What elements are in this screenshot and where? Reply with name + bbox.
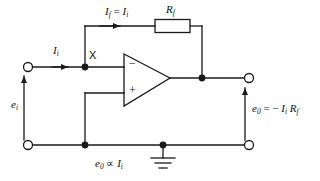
- output-terminal-bottom: [245, 141, 254, 150]
- feedback-current-label: If = Ii: [105, 6, 128, 18]
- junction-noninverting-return: [82, 142, 89, 149]
- output-voltage-equation-label: e0 = − Ii Rf: [252, 103, 299, 115]
- junction-output-node: [199, 75, 206, 82]
- input-voltage-label: ei: [11, 99, 18, 111]
- input-terminal-top: [24, 63, 33, 72]
- input-current-label: Ii: [53, 45, 59, 57]
- feedback-resistor-body: [155, 20, 190, 33]
- junction-ground-rail: [160, 142, 167, 149]
- input-terminal-bottom: [24, 141, 33, 150]
- circuit-diagram-figure: If = Ii Rf Ii X ei e0 = − Ii Rf e0 ∝ Ii …: [0, 0, 320, 181]
- circuit-schematic-svg: [0, 0, 320, 181]
- output-terminal-top: [245, 74, 254, 83]
- opamp-inverting-input-label: −: [129, 57, 136, 69]
- feedback-resistor-label: Rf: [166, 4, 175, 16]
- opamp-noninverting-input-label: +: [129, 84, 136, 96]
- summing-node-label: X: [89, 50, 96, 61]
- junction-node-x: [82, 64, 89, 71]
- proportionality-label: e0 ∝ Ii: [95, 158, 123, 170]
